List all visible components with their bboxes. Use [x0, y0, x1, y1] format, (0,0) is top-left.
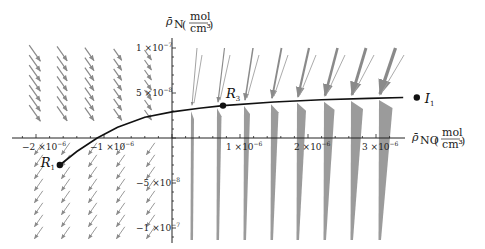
vector-arrow — [29, 105, 40, 121]
vector-arrow — [145, 70, 152, 80]
vector-field — [29, 45, 404, 240]
vector-arrow — [325, 48, 338, 96]
point-label: I1 — [424, 91, 435, 108]
vector-arrow — [34, 191, 42, 203]
vector-arrow — [194, 55, 202, 103]
vector-arrow — [116, 203, 124, 215]
paren: ) — [461, 135, 465, 148]
vector-arrow — [116, 227, 124, 239]
vector-arrow — [191, 111, 195, 240]
vector-arrow — [29, 85, 40, 101]
axis-symbol: ρ̄ — [165, 15, 173, 28]
x-axis-title: ρ̄NO(molcm³) — [411, 126, 465, 151]
vector-arrow — [29, 95, 40, 111]
y-tick-label: −5 ×10−8 — [136, 176, 180, 188]
point-i1 — [414, 94, 420, 100]
vector-arrow — [34, 203, 42, 215]
vector-arrow — [114, 59, 122, 71]
vector-arrow — [34, 215, 42, 227]
vector-arrow — [34, 227, 42, 239]
point-r1 — [57, 162, 63, 168]
vector-arrow — [88, 167, 96, 179]
vector-arrow — [116, 215, 124, 227]
vector-arrow — [271, 104, 279, 240]
vector-arrow — [88, 203, 96, 215]
vector-arrow — [29, 55, 40, 71]
x-tick-label: 1 ×10−6 — [226, 140, 263, 152]
vector-arrow — [297, 103, 307, 240]
vector-arrow — [114, 89, 122, 101]
vector-arrow — [146, 203, 154, 215]
vector-arrow — [61, 167, 69, 179]
vector-arrow — [29, 45, 40, 61]
x-tick-label: −1 ×10−6 — [90, 140, 134, 152]
point-r3 — [220, 102, 226, 108]
vector-arrow — [88, 155, 96, 167]
vector-arrow — [114, 99, 122, 111]
vector-arrow — [29, 65, 40, 81]
vector-arrow — [88, 215, 96, 227]
paren: ) — [209, 19, 213, 32]
vector-arrow — [380, 48, 396, 94]
vector-arrow — [145, 60, 152, 70]
x-tick-label: 3 ×10−6 — [362, 140, 399, 152]
vector-arrow — [146, 167, 154, 179]
vector-arrow — [351, 101, 364, 240]
vector-arrow — [88, 191, 96, 203]
axes — [12, 38, 405, 243]
vector-arrow — [217, 108, 222, 240]
unit-den: cm³ — [442, 138, 463, 151]
vector-arrow — [146, 143, 154, 155]
point-label: R1 — [40, 155, 55, 172]
axis-labels: −2 ×10−6−1 ×10−61 ×10−62 ×10−63 ×10−61 ×… — [22, 10, 465, 233]
paren: ( — [182, 19, 186, 32]
vector-arrow — [324, 102, 335, 240]
y-axis-title: ρ̄N(molcm³) — [165, 10, 213, 35]
vector-arrow — [88, 179, 96, 191]
vector-arrow — [244, 106, 251, 240]
vector-arrow — [379, 100, 393, 240]
vector-arrow — [298, 48, 309, 97]
vector-arrow — [145, 100, 152, 110]
vector-arrow — [29, 75, 40, 91]
vector-arrow — [116, 155, 124, 167]
vector-arrow — [272, 48, 282, 98]
vector-arrow — [61, 191, 69, 203]
vector-arrow — [352, 48, 366, 95]
axis-symbol: ρ̄ — [411, 131, 419, 144]
paren: ( — [434, 135, 438, 148]
vector-arrow — [114, 109, 122, 121]
unit-den: cm³ — [190, 22, 211, 35]
vector-arrow — [114, 69, 122, 81]
vector-arrow — [61, 179, 69, 191]
vector-arrow — [116, 179, 124, 191]
point-label: R3 — [225, 86, 240, 103]
vector-arrow — [116, 167, 124, 179]
vector-arrow — [61, 227, 69, 239]
vector-arrow — [114, 49, 122, 61]
x-tick-label: −2 ×10−6 — [22, 140, 66, 152]
vector-arrow — [88, 227, 96, 239]
vector-arrow — [146, 191, 154, 203]
vector-arrow — [145, 110, 152, 120]
vector-arrow — [146, 155, 154, 167]
phase-portrait-chart: R1R3I1 −2 ×10−6−1 ×10−61 ×10−62 ×10−63 ×… — [0, 0, 485, 249]
y-tick-label: 1 ×10−7 — [136, 41, 173, 53]
y-tick-label: 5 ×10−8 — [136, 86, 173, 98]
vector-arrow — [34, 179, 42, 191]
vector-arrow — [61, 203, 69, 215]
vector-arrow — [114, 79, 122, 91]
y-tick-label: −1 ×10−7 — [136, 221, 180, 233]
vector-arrow — [192, 48, 197, 105]
vector-arrow — [116, 191, 124, 203]
vector-arrow — [61, 215, 69, 227]
